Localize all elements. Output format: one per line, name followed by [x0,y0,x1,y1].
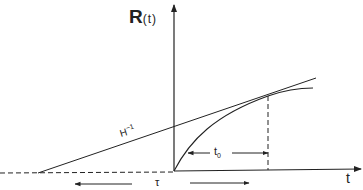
tangent-label-exponent: −1 [125,123,135,132]
tau-label: τ [155,176,159,188]
y-axis-label-symbol: R [129,6,143,27]
negative-time-dashed-line [0,172,174,173]
growth-curve [174,88,313,171]
x-axis-label: t [346,170,350,186]
tangent-line [38,78,316,173]
interval-label-subscript: 0 [217,152,221,159]
y-axis-label-argument: (t) [143,12,157,26]
diagram-graphics [0,0,363,190]
y-axis-label: R(t) [129,6,157,28]
interval-label: t0 [212,145,223,159]
diagram-canvas: R(t) t H−1 t0 τ [0,0,363,190]
